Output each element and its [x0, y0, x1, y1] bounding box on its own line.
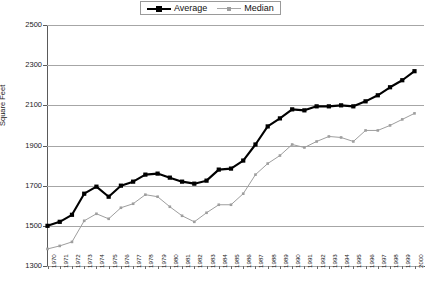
- data-point-average-1986: [241, 158, 245, 162]
- data-point-average-1993: [327, 104, 331, 108]
- x-tick-mark-1976: [121, 266, 122, 269]
- data-point-median-1992: [315, 140, 318, 143]
- x-tick-mark-1983: [207, 266, 208, 269]
- data-point-average-1984: [217, 168, 221, 172]
- data-point-average-1994: [339, 103, 343, 107]
- data-point-average-1976: [119, 184, 123, 188]
- y-tick-label-1500: 1500: [0, 222, 42, 230]
- data-point-average-1997: [376, 93, 380, 97]
- data-point-median-1986: [242, 192, 245, 195]
- x-tick-mark-1984: [219, 266, 220, 269]
- x-tick-mark-1990: [292, 266, 293, 269]
- data-point-average-1999: [400, 78, 404, 82]
- data-point-median-1977: [132, 202, 135, 205]
- x-tick-mark-2000: [415, 266, 416, 269]
- data-point-median-1985: [230, 203, 233, 206]
- data-point-median-1982: [193, 221, 196, 224]
- data-point-average-1998: [388, 85, 392, 89]
- data-point-median-1972: [71, 241, 74, 244]
- data-point-median-1998: [389, 124, 392, 127]
- data-point-average-1982: [192, 182, 196, 186]
- plot-area: [47, 25, 424, 266]
- data-point-median-1999: [401, 118, 404, 121]
- data-point-average-1972: [70, 213, 74, 217]
- data-point-median-1973: [83, 220, 86, 223]
- data-point-median-1984: [217, 203, 220, 206]
- series-line-median: [48, 113, 415, 249]
- x-tick-mark-1986: [243, 266, 244, 269]
- x-tick-mark-1974: [96, 266, 97, 269]
- x-tick-mark-1972: [72, 266, 73, 269]
- data-point-average-1992: [315, 104, 319, 108]
- data-point-median-1988: [266, 162, 269, 165]
- data-point-median-1970: [46, 248, 49, 251]
- data-point-average-1985: [229, 167, 233, 171]
- data-point-median-1978: [144, 193, 147, 196]
- series-line-average: [48, 71, 415, 226]
- x-tick-mark-1993: [329, 266, 330, 269]
- data-point-median-2000: [413, 112, 416, 115]
- data-point-average-1990: [290, 107, 294, 111]
- x-tick-mark-1979: [158, 266, 159, 269]
- x-tick-mark-1975: [109, 266, 110, 269]
- data-point-median-1996: [364, 129, 367, 132]
- data-point-median-1997: [377, 129, 380, 132]
- data-point-median-1990: [291, 143, 294, 146]
- x-tick-mark-1980: [170, 266, 171, 269]
- y-tick-mark-1300: [43, 266, 47, 267]
- x-tick-mark-1997: [378, 266, 379, 269]
- x-tick-mark-1987: [255, 266, 256, 269]
- y-tick-label-2300: 2300: [0, 61, 42, 69]
- data-point-average-1973: [82, 192, 86, 196]
- data-point-average-1971: [58, 220, 62, 224]
- series-median: [46, 112, 416, 250]
- data-point-median-1979: [156, 195, 159, 198]
- y-tick-label-2500: 2500: [0, 21, 42, 29]
- square-feet-line-chart: Average Median Square Feet 1300150017001…: [0, 0, 435, 290]
- data-point-median-1975: [107, 218, 110, 221]
- x-tick-mark-1998: [390, 266, 391, 269]
- data-series-layer: [47, 25, 424, 266]
- y-tick-label-1900: 1900: [0, 142, 42, 150]
- legend-label-average: Average: [174, 4, 207, 13]
- data-point-average-1977: [131, 180, 135, 184]
- x-tick-mark-1978: [145, 266, 146, 269]
- x-tick-mark-1991: [304, 266, 305, 269]
- data-point-median-1981: [181, 214, 184, 217]
- x-tick-mark-1977: [133, 266, 134, 269]
- data-point-average-1975: [107, 195, 111, 199]
- data-point-median-1994: [340, 136, 343, 139]
- data-point-average-1980: [168, 176, 172, 180]
- data-point-median-1971: [58, 245, 61, 248]
- x-tick-mark-1973: [84, 266, 85, 269]
- y-tick-label-1300: 1300: [0, 262, 42, 270]
- y-tick-label-1700: 1700: [0, 182, 42, 190]
- x-tick-mark-1971: [60, 266, 61, 269]
- data-point-median-1976: [120, 206, 123, 209]
- data-point-median-1983: [205, 211, 208, 214]
- legend-swatch-median: [217, 4, 241, 13]
- data-point-average-1979: [156, 172, 160, 176]
- chart-legend: Average Median: [140, 1, 281, 15]
- legend-entry-median: Median: [217, 4, 274, 13]
- data-point-average-1987: [253, 142, 257, 146]
- data-point-average-1995: [351, 104, 355, 108]
- data-point-average-1989: [278, 116, 282, 120]
- x-tick-mark-1982: [194, 266, 195, 269]
- y-tick-label-2100: 2100: [0, 101, 42, 109]
- data-point-median-1980: [169, 205, 172, 208]
- x-tick-mark-1970: [48, 266, 49, 269]
- data-point-average-2000: [412, 69, 416, 73]
- data-point-average-1978: [143, 173, 147, 177]
- x-tick-mark-1996: [366, 266, 367, 269]
- data-point-average-1996: [363, 99, 367, 103]
- data-point-average-1988: [266, 124, 270, 128]
- data-point-average-1970: [45, 224, 49, 228]
- x-tick-mark-1985: [231, 266, 232, 269]
- x-tick-mark-1999: [402, 266, 403, 269]
- x-tick-mark-1995: [353, 266, 354, 269]
- legend-entry-average: Average: [147, 4, 207, 13]
- data-point-median-1987: [254, 173, 257, 176]
- legend-label-median: Median: [244, 4, 274, 13]
- x-tick-mark-1988: [268, 266, 269, 269]
